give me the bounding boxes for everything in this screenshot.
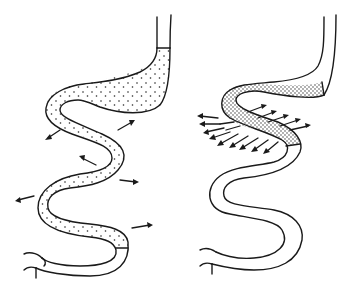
stomach-intestine-sparse-drawing	[0, 0, 174, 291]
diagram-right-figure: Intestinal segment with dense dotted con…	[174, 0, 348, 291]
stomach-intestine-dense-drawing	[174, 0, 348, 291]
diagram-left-figure: Stomach and intestine filled with sparse…	[0, 0, 174, 291]
